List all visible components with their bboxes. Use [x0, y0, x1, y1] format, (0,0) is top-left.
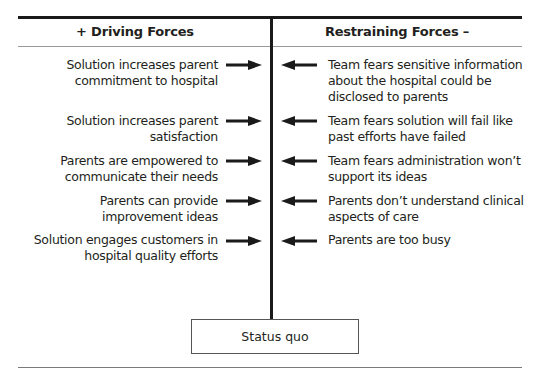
restraining-force-1: Team fears sensitive information about t…	[328, 57, 528, 105]
force-text: Parents don’t understand clinical	[328, 193, 528, 209]
force-text: about the hospital could be	[328, 73, 528, 89]
force-text: disclosed to parents	[328, 89, 528, 105]
restraining-force-2: Team fears solution will fail like past …	[328, 113, 528, 145]
arrow-right-icon	[226, 60, 262, 70]
force-text: support its ideas	[328, 169, 528, 185]
arrow-right-icon	[226, 196, 262, 206]
force-text: Team fears solution will fail like	[328, 113, 528, 129]
arrow-right-icon	[226, 116, 262, 126]
status-quo-line	[270, 17, 273, 319]
arrow-left-icon	[281, 196, 317, 206]
force-text: past efforts have failed	[328, 129, 528, 145]
force-text: Team fears administration won’t	[328, 153, 528, 169]
restraining-forces-header: Restraining Forces –	[272, 24, 522, 39]
driving-force-2: Solution increases parent satisfaction	[0, 113, 218, 145]
force-text: Parents are empowered to	[0, 153, 218, 169]
driving-force-4: Parents can provide improvement ideas	[0, 193, 218, 225]
status-quo-label: Status quo	[241, 329, 308, 344]
force-text: Parents are too busy	[328, 232, 528, 248]
driving-force-1: Solution increases parent commitment to …	[0, 57, 218, 89]
force-text: hospital quality efforts	[0, 248, 218, 264]
force-text: Solution increases parent	[0, 57, 218, 73]
arrow-left-icon	[281, 236, 317, 246]
force-text: aspects of care	[328, 209, 528, 225]
arrow-left-icon	[281, 60, 317, 70]
arrow-right-icon	[226, 236, 262, 246]
bottom-rule	[18, 367, 522, 368]
force-text: Solution increases parent	[0, 113, 218, 129]
arrow-left-icon	[281, 116, 317, 126]
driving-force-5: Solution engages customers in hospital q…	[0, 232, 218, 264]
force-text: Solution engages customers in	[0, 232, 218, 248]
status-quo-box: Status quo	[191, 319, 359, 354]
restraining-force-4: Parents don’t understand clinical aspect…	[328, 193, 528, 225]
restraining-force-3: Team fears administration won’t support …	[328, 153, 528, 185]
force-text: improvement ideas	[0, 209, 218, 225]
driving-forces-header: + Driving Forces	[0, 24, 270, 39]
force-text: Team fears sensitive information	[328, 57, 528, 73]
driving-force-3: Parents are empowered to communicate the…	[0, 153, 218, 185]
force-text: communicate their needs	[0, 169, 218, 185]
force-text: Parents can provide	[0, 193, 218, 209]
force-text: commitment to hospital	[0, 73, 218, 89]
restraining-force-5: Parents are too busy	[328, 232, 528, 248]
arrow-left-icon	[281, 156, 317, 166]
force-text: satisfaction	[0, 129, 218, 145]
arrow-right-icon	[226, 156, 262, 166]
